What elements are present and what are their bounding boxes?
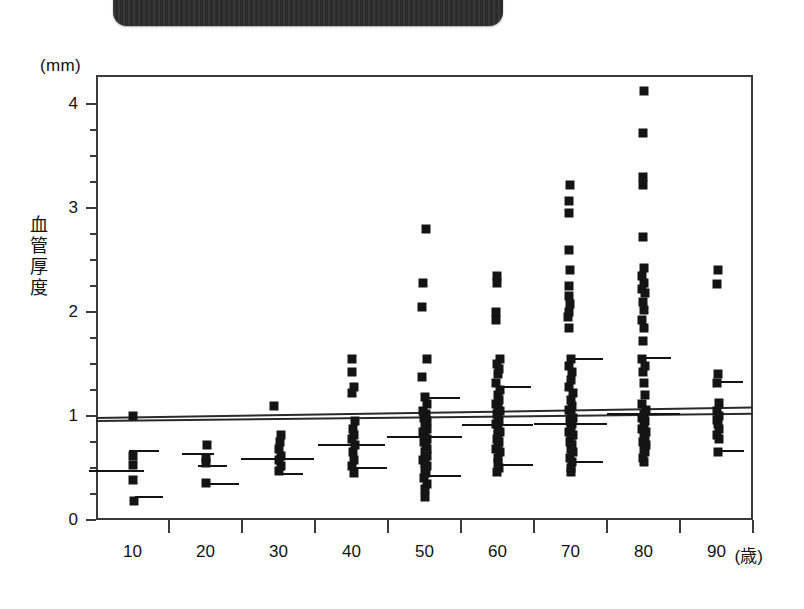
data-point bbox=[639, 305, 648, 314]
y-tick-major bbox=[86, 519, 96, 521]
data-point bbox=[638, 337, 647, 346]
x-tick-label: 60 bbox=[488, 542, 507, 562]
group-mean-bar bbox=[427, 475, 461, 477]
y-tick-label: 4 bbox=[48, 94, 78, 114]
y-unit-label: (mm) bbox=[40, 56, 81, 76]
y-tick-major bbox=[86, 103, 96, 105]
data-point bbox=[420, 493, 429, 502]
data-point bbox=[128, 460, 137, 469]
y-tick-minor bbox=[90, 337, 96, 339]
data-point bbox=[565, 266, 574, 275]
data-point bbox=[566, 468, 575, 477]
x-tick-major bbox=[533, 520, 535, 533]
group-mean-bar bbox=[89, 470, 144, 472]
group-mean-bar bbox=[500, 386, 531, 388]
group-mean-bar bbox=[534, 423, 607, 425]
data-point bbox=[202, 441, 211, 450]
x-tick-major bbox=[679, 520, 681, 533]
group-mean-bar bbox=[500, 464, 533, 466]
data-point bbox=[638, 368, 647, 377]
data-point bbox=[638, 129, 647, 138]
x-tick-label: 40 bbox=[342, 542, 361, 562]
group-mean-bar bbox=[719, 381, 743, 383]
group-mean-bar bbox=[573, 461, 603, 463]
x-tick-major bbox=[168, 520, 170, 533]
data-point bbox=[712, 378, 721, 387]
y-tick-minor bbox=[90, 259, 96, 261]
data-point bbox=[128, 451, 137, 460]
x-tick-label: 90 bbox=[707, 542, 726, 562]
data-point bbox=[419, 278, 428, 287]
data-point bbox=[129, 497, 138, 506]
data-point bbox=[421, 224, 430, 233]
data-point bbox=[639, 378, 648, 387]
data-point bbox=[128, 476, 137, 485]
x-axis-unit-label: (歳) bbox=[735, 542, 763, 567]
x-tick-major bbox=[606, 520, 608, 533]
group-mean-bar bbox=[275, 473, 303, 475]
x-tick-label: 50 bbox=[415, 542, 434, 562]
group-mean-bar bbox=[182, 453, 214, 455]
y-axis-title-char: 度 bbox=[28, 278, 50, 299]
data-point bbox=[565, 323, 574, 332]
group-mean-bar bbox=[207, 483, 239, 485]
x-tick-major bbox=[241, 520, 243, 533]
x-tick-major bbox=[752, 520, 754, 533]
group-mean-bar bbox=[426, 397, 460, 399]
y-tick-minor bbox=[90, 129, 96, 131]
y-tick-minor bbox=[90, 389, 96, 391]
data-point bbox=[714, 434, 723, 443]
data-point bbox=[128, 412, 137, 421]
data-point bbox=[564, 313, 573, 322]
y-axis-title-char: 血 bbox=[28, 215, 50, 236]
data-point bbox=[713, 448, 722, 457]
group-mean-bar bbox=[241, 458, 314, 460]
y-axis-title-char: 厚 bbox=[28, 257, 50, 278]
data-point bbox=[638, 181, 647, 190]
data-point bbox=[565, 245, 574, 254]
data-point bbox=[565, 209, 574, 218]
x-tick-label: 30 bbox=[269, 542, 288, 562]
data-point bbox=[418, 302, 427, 311]
data-point bbox=[640, 457, 649, 466]
data-point bbox=[270, 401, 279, 410]
group-mean-bar bbox=[607, 413, 680, 415]
y-tick-major bbox=[86, 207, 96, 209]
data-point bbox=[640, 323, 649, 332]
group-mean-bar bbox=[198, 465, 227, 467]
data-point bbox=[713, 266, 722, 275]
x-tick-label: 20 bbox=[196, 542, 215, 562]
y-tick-minor bbox=[90, 493, 96, 495]
y-tick-minor bbox=[90, 181, 96, 183]
group-mean-bar bbox=[573, 358, 603, 360]
y-tick-minor bbox=[90, 233, 96, 235]
group-mean-bar bbox=[318, 444, 385, 446]
data-point bbox=[423, 354, 432, 363]
group-mean-bar bbox=[387, 436, 463, 438]
figure-root: (mm) 血管厚度 01234102030405060708090 (歳) bbox=[0, 0, 804, 609]
x-tick-major bbox=[387, 520, 389, 533]
title-banner bbox=[113, 0, 503, 26]
data-point bbox=[638, 233, 647, 242]
banner-texture bbox=[113, 0, 503, 26]
data-point bbox=[492, 468, 501, 477]
x-tick-label: 80 bbox=[634, 542, 653, 562]
data-point bbox=[492, 316, 501, 325]
data-point bbox=[565, 196, 574, 205]
group-mean-bar bbox=[640, 357, 671, 359]
y-axis-title: 血管厚度 bbox=[28, 215, 50, 299]
data-point bbox=[350, 469, 359, 478]
data-point bbox=[347, 389, 356, 398]
y-tick-label: 1 bbox=[48, 406, 78, 426]
x-tick-major bbox=[460, 520, 462, 533]
y-axis-title-char: 管 bbox=[28, 236, 50, 257]
y-tick-minor bbox=[90, 285, 96, 287]
data-point bbox=[565, 282, 574, 291]
data-point bbox=[348, 368, 357, 377]
y-tick-minor bbox=[90, 441, 96, 443]
group-mean-bar bbox=[462, 424, 532, 426]
data-point bbox=[348, 354, 357, 363]
x-tick-label: 70 bbox=[561, 542, 580, 562]
group-mean-bar bbox=[129, 450, 159, 452]
data-point bbox=[492, 278, 501, 287]
